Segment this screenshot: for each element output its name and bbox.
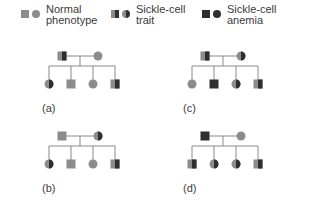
mother-circle-icon: [236, 51, 246, 61]
son-square-icon: [187, 159, 197, 169]
daughter-circle-icon: [231, 159, 241, 169]
normal-female-circle-icon: [32, 10, 40, 18]
father-square-icon: [57, 131, 67, 141]
daughter-circle-icon: [187, 79, 197, 89]
son-square-icon: [253, 79, 263, 89]
pedigree-label-d: (d): [183, 182, 196, 194]
trait-male-square-icon: [111, 10, 119, 18]
legend-trait: Sickle-cell trait: [111, 4, 186, 26]
legend-anemia: Sickle-cell anemia: [202, 4, 277, 26]
legend-label-anemia-2: anemia: [227, 15, 277, 26]
mother-circle-icon: [236, 131, 246, 141]
pedigree-d: [183, 130, 293, 205]
normal-male-square-icon: [21, 10, 29, 18]
daughter-circle-icon: [231, 79, 241, 89]
pedigree-b: [40, 130, 150, 205]
son-square-icon: [66, 159, 76, 169]
legend-normal: Normal phenotype: [21, 4, 97, 26]
father-square-icon: [200, 51, 210, 61]
trait-female-circle-icon: [122, 10, 130, 18]
anemia-female-circle-icon: [213, 10, 221, 18]
legend-label-normal-2: phenotype: [46, 15, 97, 26]
daughter-circle-icon: [88, 79, 98, 89]
pedigree-label-a: (a): [42, 102, 55, 114]
pedigree-label-b: (b): [42, 182, 55, 194]
daughter-circle-icon: [44, 159, 54, 169]
daughter-circle-icon: [88, 159, 98, 169]
father-square-icon: [200, 131, 210, 141]
son-square-icon: [110, 159, 120, 169]
father-square-icon: [57, 51, 67, 61]
legend-label-trait-2: trait: [136, 15, 186, 26]
mother-circle-icon: [93, 51, 103, 61]
son-square-icon: [66, 79, 76, 89]
pedigree-label-c: (c): [183, 102, 196, 114]
anemia-male-square-icon: [202, 10, 210, 18]
daughter-circle-icon: [209, 159, 219, 169]
son-square-icon: [253, 159, 263, 169]
daughter-circle-icon: [44, 79, 54, 89]
pedigree-c: [183, 50, 293, 125]
mother-circle-icon: [93, 131, 103, 141]
pedigree-a: [40, 50, 150, 125]
son-square-icon: [110, 79, 120, 89]
son-square-icon: [209, 79, 219, 89]
